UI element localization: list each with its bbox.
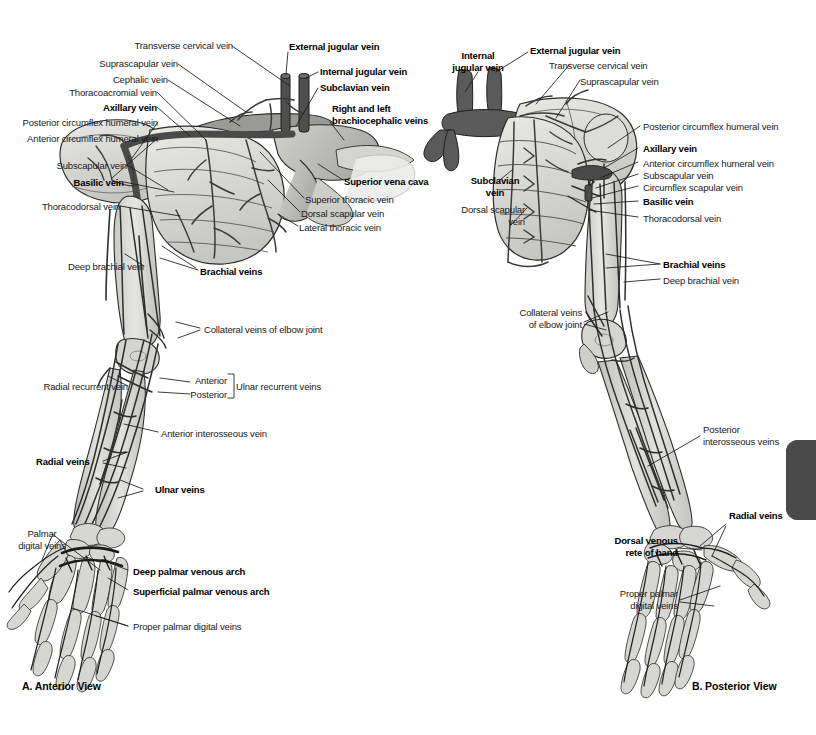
label-b-subscapular-vein: Subscapular vein [643,170,713,181]
label-a-palmar-digital-veins-line2: digital veins [2,540,82,551]
label-a-subscapular-vein: Subscapular vein [20,160,127,171]
label-b-thoracodorsal-vein: Thoracodorsal vein [643,213,721,224]
label-a-internal-jugular-vein: Internal jugular vein [320,66,407,77]
label-b-dorsal-scapular-vein-line2: vein [425,216,525,227]
label-b-dorsal-venous-rete-line2: rete of hand [586,547,678,558]
label-a-radial-veins: Radial veins [36,456,90,467]
label-b-deep-brachial-vein: Deep brachial vein [663,275,739,286]
label-b-subclavian-vein-line2: vein [455,187,535,198]
label-a-superior-vena-cava: Superior vena cava [344,176,428,187]
label-b-anterior-circumflex-humeral-vein: Anterior circumflex humeral vein [643,158,774,169]
label-b-posterior-interosseous-line2: interosseous veins [703,436,779,447]
label-a-superficial-palmar-venous-arch: Superficial palmar venous arch [133,586,269,597]
label-b-brachial-veins: Brachial veins [663,259,725,270]
label-a-transverse-cervical-vein: Transverse cervical vein [20,40,233,51]
label-a-deep-brachial-vein: Deep brachial vein [20,261,144,272]
label-a-palmar-digital-veins-line1: Palmar [6,528,78,539]
label-a-thoracodorsal-vein: Thoracodorsal vein [20,201,120,212]
caption-panel-a: A. Anterior View [22,680,101,692]
label-a-ulnar-recurrent-veins: Ulnar recurrent veins [236,381,321,392]
label-b-dorsal-scapular-vein-line1: Dorsal scapular [425,204,525,215]
label-b-proper-palmar-digital-line1: Proper palmar [596,588,678,599]
label-a-deep-palmar-venous-arch: Deep palmar venous arch [133,566,245,577]
label-b-proper-palmar-digital-line2: digital veins [596,600,678,611]
label-b-collateral-veins-line2: of elbow joint [496,319,582,330]
label-a-cephalic-vein: Cephalic vein [20,74,168,85]
label-a-external-jugular-vein: External jugular vein [289,41,379,52]
label-b-posterior-interosseous-line1: Posterior [703,424,740,435]
label-b-circumflex-scapular-vein: Circumflex scapular vein [643,182,743,193]
label-b-internal-jugular-line2: jugular vein [433,62,523,73]
caption-panel-b: B. Posterior View [692,680,776,692]
label-a-ulnar-veins: Ulnar veins [155,484,205,495]
label-b-transverse-cervical-vein: Transverse cervical vein [549,60,647,71]
label-a-collateral-veins-elbow: Collateral veins of elbow joint [204,324,322,335]
label-b-basilic-vein: Basilic vein [643,196,693,207]
label-a-ulnar-recurrent-anterior: Anterior [176,375,227,386]
label-b-subclavian-vein-line1: Subclavian [455,175,535,186]
label-a-dorsal-scapular-vein: Dorsal scapular vein [301,208,384,219]
label-a-posterior-circumflex-humeral-vein: Posterior circumflex humeral vein [2,117,158,128]
label-a-superior-thoracic-vein: Superior thoracic vein [305,194,394,205]
label-b-collateral-veins-line1: Collateral veins [496,307,582,318]
label-b-internal-jugular-line1: Internal [443,50,513,61]
edge-tab[interactable] [786,440,816,520]
label-a-basilic-vein: Basilic vein [20,177,124,188]
label-a-radial-recurrent-vein: Radial recurrent vein [20,381,128,392]
label-a-proper-palmar-digital-veins: Proper palmar digital veins [133,621,241,632]
label-b-posterior-circumflex-humeral-vein: Posterior circumflex humeral vein [643,121,779,132]
label-a-right-left-brachiocephalic-line1: Right and left [332,103,391,114]
label-b-radial-veins: Radial veins [729,510,783,521]
label-a-subclavian-vein: Subclavian vein [320,82,390,93]
label-b-suprascapular-vein: Suprascapular vein [580,76,659,87]
label-b-dorsal-venous-rete-line1: Dorsal venous [586,535,678,546]
figure-canvas: Transverse cervical vein Suprascapular v… [0,0,816,735]
label-b-external-jugular-vein: External jugular vein [530,45,620,56]
label-a-lateral-thoracic-vein: Lateral thoracic vein [299,222,381,233]
label-a-axillary-vein: Axillary vein [20,102,157,113]
label-a-brachial-veins: Brachial veins [200,266,262,277]
label-a-suprascapular-vein: Suprascapular vein [20,58,178,69]
label-a-right-left-brachiocephalic-line2: brachiocephalic veins [332,115,428,126]
label-a-ulnar-recurrent-posterior: Posterior [176,389,227,400]
label-a-anterior-circumflex-humeral-vein: Anterior circumflex humeral vein [2,133,158,144]
label-a-anterior-interosseous-vein: Anterior interosseous vein [161,428,267,439]
label-b-axillary-vein: Axillary vein [643,143,697,154]
label-a-thoracoacromial-vein: Thoracoacromial vein [20,87,157,98]
